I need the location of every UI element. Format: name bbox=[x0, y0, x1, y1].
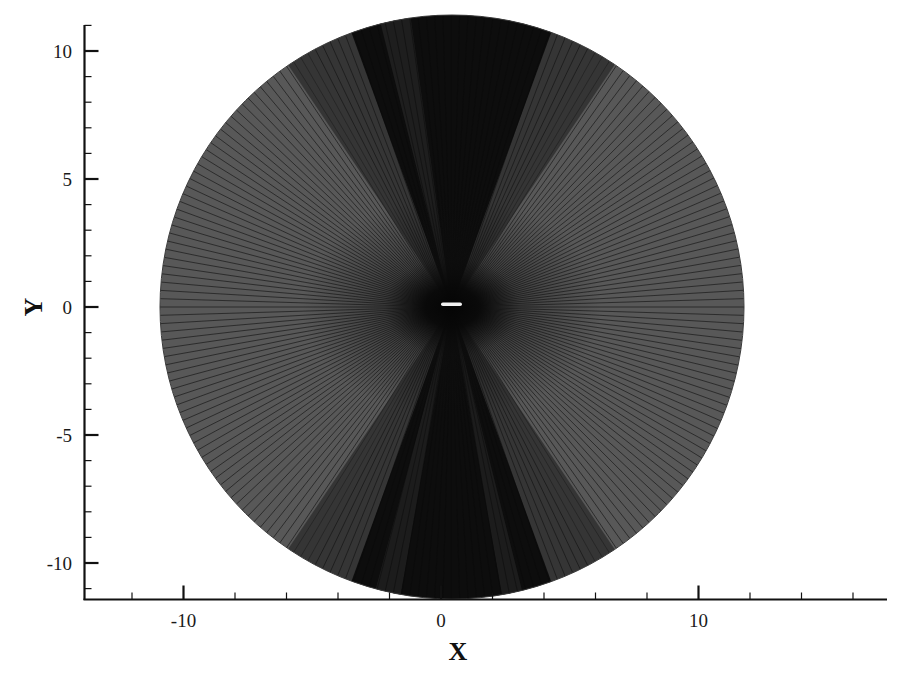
y-axis-title: Y bbox=[19, 297, 48, 316]
x-tick-label: 10 bbox=[689, 610, 708, 631]
x-tick-label: -10 bbox=[171, 610, 196, 631]
x-tick-label: 0 bbox=[436, 610, 446, 631]
y-axis-ticks bbox=[85, 25, 99, 588]
x-axis-tick-labels: -10010 bbox=[171, 610, 708, 631]
y-tick-label: 5 bbox=[63, 169, 73, 190]
mesh-domain bbox=[153, 3, 750, 610]
x-axis-title: X bbox=[449, 637, 468, 666]
mesh-plot: -10-50510 -10010 X Y bbox=[0, 0, 908, 687]
y-tick-label: -10 bbox=[47, 553, 72, 574]
y-tick-label: 0 bbox=[63, 297, 73, 318]
y-tick-label: 10 bbox=[53, 41, 72, 62]
center-dark-region bbox=[302, 197, 602, 417]
y-axis-tick-labels: -10-50510 bbox=[47, 41, 72, 574]
airfoil-shape bbox=[441, 303, 462, 307]
y-tick-label: -5 bbox=[56, 425, 72, 446]
